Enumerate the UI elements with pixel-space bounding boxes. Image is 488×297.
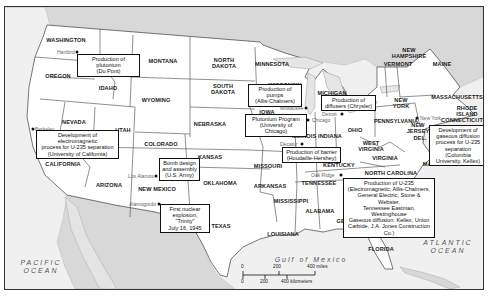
site-callout: Production of diffusers (Chrysler) (321, 95, 376, 111)
state-label: FLORIDA (368, 246, 394, 252)
state-label: DEL. (413, 135, 426, 141)
map-frame: WASHINGTONOREGONIDAHOMONTANAWYOMINGNORTH… (4, 6, 484, 290)
scale-km-200: 200 (260, 279, 268, 284)
state-label: COLORADO (144, 141, 177, 147)
city-label: Hanford (57, 49, 75, 55)
state-label: VERMONT (384, 61, 413, 67)
site-callout: Bomb design and assembly (U.S. Army) (159, 158, 200, 181)
site-callout: Production of U-235 (Electromagnetic: Al… (343, 178, 435, 238)
state-label: OKLAHOMA (203, 180, 237, 186)
site-callout: Development of electromagnetic process f… (36, 130, 119, 159)
state-label: MASSACHUSETTS (431, 94, 483, 100)
state-label: KANSAS (198, 154, 222, 160)
site-callout: Production of pumps (Allis-Chalmers) (248, 84, 302, 107)
state-label: INDIANA (318, 133, 342, 139)
site-callout: Development of gaseous diffusion process… (429, 125, 484, 166)
state-label: IDAHO (99, 85, 118, 91)
state-label: VIRGINIA (372, 155, 398, 161)
state-label: MISSISSIPPI (274, 198, 308, 204)
state-label: TENNESSEE (302, 180, 337, 186)
ocean-label: PACIFIC OCEAN (20, 259, 61, 275)
city-marker-icon (341, 113, 344, 116)
city-label: Alamogordo (129, 201, 156, 207)
scale-miles-400: 400 miles (307, 264, 328, 269)
state-label: WASHINGTON (46, 37, 85, 43)
state-label: NORTH DAKOTA (212, 57, 236, 69)
state-label: LOUISIANA (267, 231, 299, 237)
state-label: ARIZONA (96, 182, 122, 188)
city-label: Los Alamos (128, 173, 154, 179)
state-label: MAINE (433, 61, 452, 67)
site-callout: First nuclear explosion, "Trinity" July … (160, 204, 210, 233)
scale-miles-200: 200 (273, 264, 281, 269)
city-marker-icon (305, 107, 308, 110)
state-label: SOUTH DAKOTA (211, 83, 235, 95)
state-label: NEW HAMPSHIRE (392, 47, 426, 59)
state-label: NEW YORK (393, 97, 410, 109)
scale-km-400: 400 kilometers (281, 279, 312, 284)
state-label: CONNECTICUT (441, 117, 483, 123)
state-label: NEBRASKA (194, 121, 227, 127)
state-label: TEXAS (211, 223, 230, 229)
city-marker-icon (301, 143, 304, 146)
state-label: RHODE ISLAND (456, 105, 477, 117)
state-label: MISSOURI (254, 163, 282, 169)
state-label: ARKANSAS (254, 183, 287, 189)
site-callout: Production of barrier (Houdaille-Hershey… (282, 147, 341, 163)
state-label: ALABAMA (306, 208, 335, 214)
city-label: Chicago (312, 117, 330, 123)
city-marker-icon (416, 117, 419, 120)
state-label: MINNESOTA (255, 61, 289, 67)
state-label: NEVADA (62, 119, 86, 125)
city-marker-icon (340, 174, 343, 177)
city-label: New York (420, 115, 441, 121)
state-label: WEST VIRGINIA (358, 140, 384, 152)
site-callout: Production of plutonium (Du Pont) (77, 54, 140, 77)
city-label: Detroit (322, 111, 337, 117)
ocean-label: Gulf of Mexico (275, 256, 348, 264)
scale-miles-0: 0 (241, 264, 244, 269)
state-label: NORTH CAROLINA (365, 170, 417, 176)
state-label: OHIO (348, 127, 363, 133)
city-marker-icon (155, 175, 158, 178)
state-label: CALIFORNIA (45, 161, 81, 167)
state-label: WYOMING (142, 97, 171, 103)
ocean-label: ATLANTIC OCEAN (423, 239, 472, 255)
state-label: OREGON (45, 73, 70, 79)
scale-km-0: 0 (241, 279, 244, 284)
site-callout: Plutonium Program (University of Chicago… (245, 114, 307, 137)
state-label: NEW JERSEY (407, 122, 430, 134)
city-label: Oak Ridge (311, 172, 335, 178)
state-label: NEW MEXICO (138, 186, 176, 192)
state-label: MONTANA (149, 58, 178, 64)
